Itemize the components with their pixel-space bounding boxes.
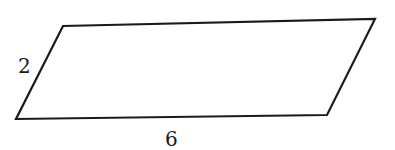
parallelogram-diagram: 2 6 (0, 0, 395, 150)
parallelogram-shape (16, 19, 375, 119)
base-length-label: 6 (165, 127, 178, 150)
side-length-label: 2 (18, 54, 31, 78)
